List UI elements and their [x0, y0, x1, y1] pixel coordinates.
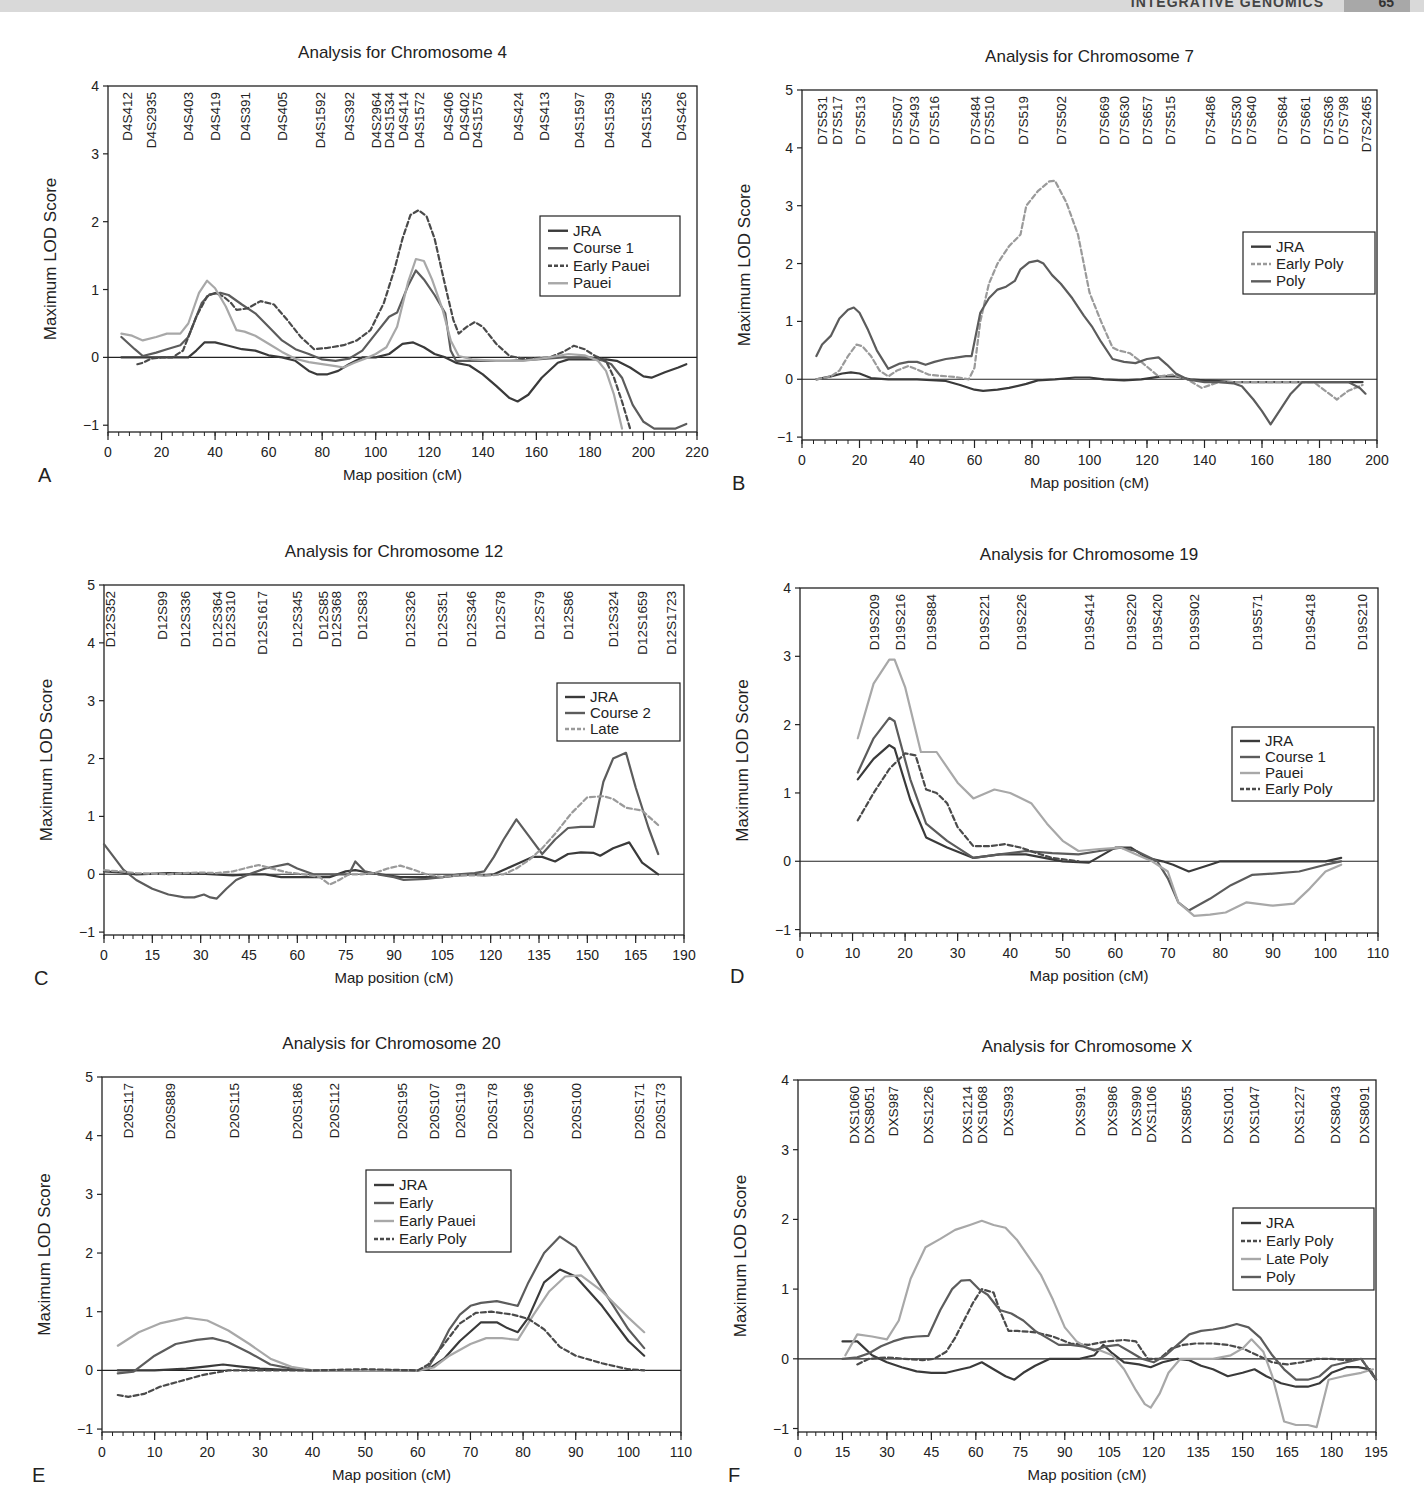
y-axis-label: Maximum LOD Score: [35, 1173, 54, 1335]
x-tick-label: 0: [104, 444, 112, 460]
x-tick-label: 100: [1078, 452, 1102, 468]
x-tick-label: 0: [98, 1444, 106, 1460]
marker-label: DXS1001: [1221, 1086, 1236, 1144]
panel-letter: F: [728, 1464, 740, 1486]
x-tick-label: 190: [672, 947, 696, 963]
x-tick-label: 180: [578, 444, 602, 460]
marker-label: DXS990: [1129, 1086, 1144, 1136]
marker-label: D20S171: [632, 1083, 647, 1139]
marker-label: D4S413: [537, 92, 552, 141]
marker-label: D4S403: [181, 92, 196, 141]
chart-title: Analysis for Chromosome 4: [298, 43, 507, 62]
x-tick-label: 110: [670, 1444, 693, 1460]
marker-label: D20S115: [227, 1083, 242, 1138]
legend: JRACourse 1Early PaueiPauei: [540, 216, 680, 296]
marker-label: D4S412: [120, 92, 135, 141]
marker-label: D12S79: [532, 591, 547, 640]
marker-label: D4S1575: [470, 92, 485, 148]
x-tick-label: 110: [1367, 945, 1390, 961]
y-tick-label: 1: [783, 785, 791, 801]
x-tick-label: 90: [1265, 945, 1281, 961]
x-tick-label: 180: [1320, 1444, 1344, 1460]
y-tick-label: −1: [773, 1421, 789, 1437]
marker-label: D7S657: [1140, 96, 1155, 145]
marker-label: D7S519: [1016, 96, 1031, 145]
marker-label: D4S1592: [313, 92, 328, 148]
chart-title: Analysis for Chromosome X: [982, 1037, 1193, 1056]
marker-label: D20S112: [327, 1083, 342, 1138]
marker-label: DXS993: [1001, 1086, 1016, 1136]
x-tick-label: 20: [154, 444, 170, 460]
legend: JRAEarlyEarly PaueiEarly Poly: [366, 1170, 511, 1252]
marker-label: D19S418: [1303, 594, 1318, 650]
y-tick-label: 2: [783, 717, 791, 733]
marker-label: D7S486: [1203, 96, 1218, 145]
x-tick-label: 50: [357, 1444, 373, 1460]
marker-label: D7S515: [1163, 96, 1178, 145]
marker-label: D12S326: [403, 591, 418, 647]
x-tick-label: 140: [1193, 452, 1217, 468]
marker-label: D12S345: [290, 591, 305, 647]
series-line-course-2: [104, 753, 658, 899]
legend-label: Course 1: [1265, 748, 1326, 765]
marker-label: D19S414: [1082, 594, 1097, 651]
x-tick-label: 165: [1275, 1444, 1299, 1460]
x-tick-label: 0: [796, 945, 804, 961]
x-tick-label: 45: [924, 1444, 940, 1460]
x-tick-label: 195: [1364, 1444, 1388, 1460]
marker-label: D19S216: [893, 594, 908, 650]
marker-label: D12S324: [606, 591, 621, 648]
y-axis-label: Maximum LOD Score: [37, 679, 56, 841]
x-tick-label: 0: [798, 452, 806, 468]
y-tick-label: 2: [85, 1245, 93, 1261]
series-line-early-poly: [118, 1312, 644, 1397]
marker-label: D4S1572: [412, 92, 427, 148]
legend-label: Poly: [1276, 272, 1306, 289]
x-tick-label: 180: [1308, 452, 1332, 468]
y-tick-label: 5: [87, 577, 95, 593]
marker-label: D20S117: [121, 1083, 136, 1138]
y-axis-label: Maximum LOD Score: [731, 1175, 750, 1337]
chart-panel-A: Analysis for Chromosome 4−10123402040608…: [38, 43, 709, 486]
y-tick-label: −1: [775, 922, 791, 938]
marker-label: D4S392: [342, 92, 357, 141]
marker-label: D19S420: [1150, 594, 1165, 650]
y-tick-label: 4: [785, 140, 793, 156]
x-tick-label: 150: [1231, 1444, 1255, 1460]
marker-label: D12S1659: [635, 591, 650, 655]
marker-label: D7S530: [1229, 96, 1244, 145]
marker-label: DXS1047: [1247, 1086, 1262, 1144]
x-tick-label: 80: [515, 1444, 531, 1460]
marker-label: D12S346: [464, 591, 479, 647]
legend-label: Course 2: [590, 704, 651, 721]
y-tick-label: 3: [781, 1142, 789, 1158]
x-tick-label: 135: [527, 947, 551, 963]
x-axis-label: Map position (cM): [1030, 474, 1149, 491]
y-axis-label: Maximum LOD Score: [41, 178, 60, 340]
marker-label: DXS8051: [862, 1086, 877, 1144]
marker-label: D7S517: [830, 96, 845, 145]
y-tick-label: 4: [85, 1128, 93, 1144]
x-tick-label: 80: [1024, 452, 1040, 468]
marker-label: D20S195: [395, 1083, 410, 1139]
y-tick-label: 0: [87, 866, 95, 882]
series-line-poly: [843, 1280, 1377, 1380]
x-tick-label: 140: [471, 444, 495, 460]
marker-label: D12S99: [155, 591, 170, 640]
legend-label: JRA: [1265, 732, 1293, 749]
panel-letter: A: [38, 464, 52, 486]
panel-letter: E: [32, 1464, 45, 1486]
legend-label: JRA: [399, 1176, 427, 1193]
panel-letter: C: [34, 967, 48, 989]
x-tick-label: 135: [1186, 1444, 1210, 1460]
marker-label: D4S1535: [639, 92, 654, 148]
y-tick-label: −1: [83, 417, 99, 433]
x-tick-label: 200: [1365, 452, 1389, 468]
series-line-early-pauei: [118, 1275, 644, 1370]
marker-label: D4S405: [275, 92, 290, 141]
chart-title: Analysis for Chromosome 19: [980, 545, 1198, 564]
chart-panel-F: Analysis for Chromosome X−10123401530456…: [728, 1037, 1388, 1486]
marker-label: D20S107: [427, 1083, 442, 1139]
marker-label: D19S884: [924, 594, 939, 651]
legend-label: Early Poly: [1265, 780, 1333, 797]
